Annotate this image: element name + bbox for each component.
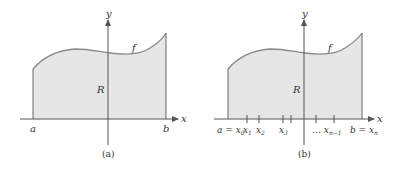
caption-a: (a) bbox=[102, 149, 114, 159]
label-xn-1: … xn−1 bbox=[312, 125, 342, 136]
function-label: f bbox=[327, 42, 334, 53]
b-label: b bbox=[163, 123, 169, 134]
region-r-fill bbox=[228, 33, 362, 119]
riemann-figure: y x f R a b (a) y x f R a = x0 x1 x2 x3 bbox=[0, 0, 401, 176]
caption-b: (b) bbox=[298, 149, 311, 159]
panel-b: y x f R a = x0 x1 x2 x3 … xn−1 b = xn (b… bbox=[214, 8, 383, 159]
label-x3: x3 bbox=[279, 125, 288, 136]
x-axis-label: x bbox=[181, 113, 187, 124]
label-x1: x1 bbox=[243, 125, 252, 136]
region-label: R bbox=[96, 84, 105, 95]
region-label: R bbox=[292, 84, 301, 95]
label-x2: x2 bbox=[256, 125, 265, 136]
x-axis-label: x bbox=[377, 113, 383, 124]
label-a-x0: a = x0 bbox=[217, 125, 245, 136]
function-label: f bbox=[131, 42, 138, 53]
y-axis-label: y bbox=[301, 8, 308, 19]
y-axis-label: y bbox=[105, 8, 112, 19]
panel-a: y x f R a b (a) bbox=[20, 8, 187, 159]
region-r-fill bbox=[33, 33, 166, 119]
a-label: a bbox=[30, 123, 36, 134]
label-b-xn: b = xn bbox=[350, 125, 378, 136]
